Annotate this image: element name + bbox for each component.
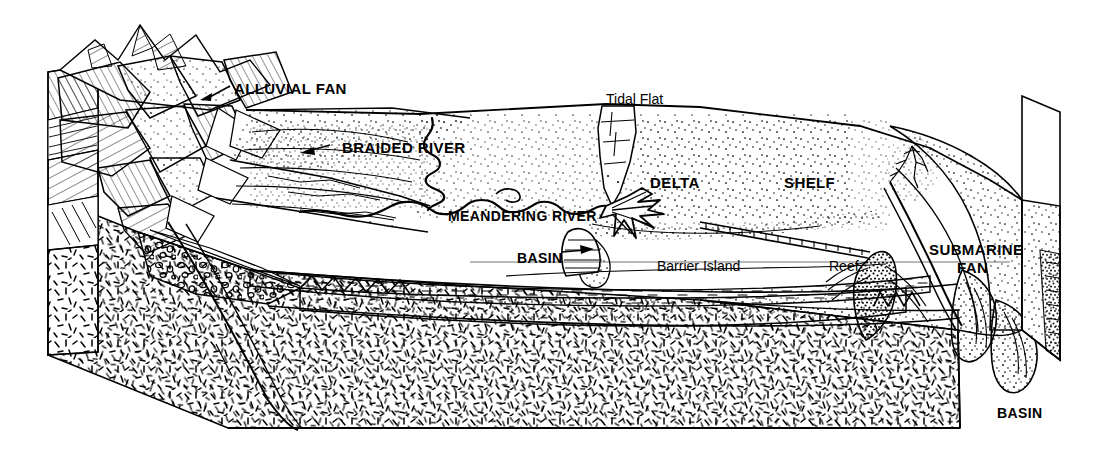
label-submarine-fan-line1: SUBMARINE	[929, 241, 1023, 258]
label-reef: Reef	[829, 258, 859, 274]
label-delta: DELTA	[650, 174, 700, 191]
label-alluvial-fan: ALLUVIAL FAN	[234, 80, 347, 97]
right-side-panel	[1022, 96, 1060, 360]
diagram-canvas	[0, 0, 1102, 452]
label-basin-left: BASIN	[517, 250, 563, 266]
label-basin-right: BASIN	[997, 405, 1043, 421]
label-shelf: SHELF	[784, 174, 835, 191]
diagram-linework	[48, 25, 1060, 430]
block-diagram-figure: ALLUVIAL FAN BRAIDED RIVER Tidal Flat ME…	[0, 0, 1102, 452]
label-submarine-fan-line2: FAN	[957, 259, 988, 276]
label-tidal-flat: Tidal Flat	[606, 91, 663, 107]
label-meandering-river: MEANDERING RIVER	[448, 208, 597, 224]
label-barrier-island: Barrier Island	[657, 258, 740, 274]
label-braided-river: BRAIDED RIVER	[342, 139, 466, 156]
